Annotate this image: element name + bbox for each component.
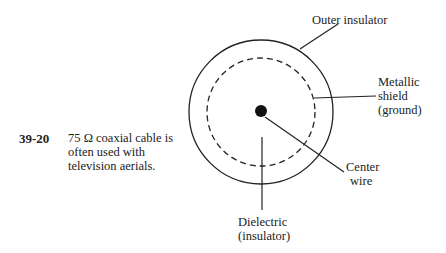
label-line: (insulator) xyxy=(238,229,290,243)
label-metallic-shield: Metallic shield (ground) xyxy=(378,75,422,117)
label-line: Center xyxy=(346,160,379,174)
label-line: (ground) xyxy=(378,103,422,117)
leader-outer-insulator xyxy=(300,24,338,49)
label-line: Dielectric xyxy=(238,215,290,229)
label-line: wire xyxy=(346,174,379,188)
center-wire-dot xyxy=(255,105,267,117)
label-dielectric: Dielectric (insulator) xyxy=(238,215,290,243)
label-line: Metallic xyxy=(378,75,422,89)
label-outer-insulator: Outer insulator xyxy=(312,13,387,27)
leader-metallic-shield xyxy=(314,96,376,98)
label-center-wire: Center wire xyxy=(346,160,379,188)
coaxial-cable-diagram xyxy=(0,0,446,253)
label-line: shield xyxy=(378,89,422,103)
